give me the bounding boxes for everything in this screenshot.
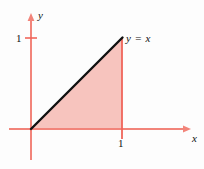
x-axis-arrow-icon [183, 126, 191, 133]
y-axis-label: y [38, 10, 43, 21]
figure-canvas [0, 0, 204, 169]
curve-equation-label: y = x [126, 33, 151, 44]
y-axis-arrow-icon [28, 13, 35, 21]
y-axis-tick-label-1: 1 [16, 33, 22, 44]
math-figure: y x y = x 1 1 [0, 0, 204, 169]
x-axis-tick-label-1: 1 [118, 138, 124, 149]
x-axis-label: x [192, 133, 197, 144]
